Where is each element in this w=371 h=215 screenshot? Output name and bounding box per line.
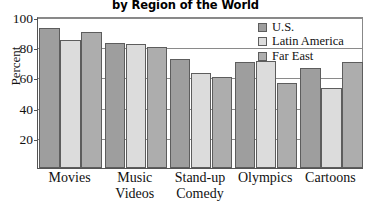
x-axis-labels: MoviesMusicVideosStand-upComedyOlympicsC… — [37, 170, 363, 215]
bar — [277, 83, 298, 168]
legend-item: U.S. — [258, 20, 362, 35]
bar — [170, 59, 191, 168]
x-axis-label-line: Olympics — [233, 170, 298, 186]
x-axis-label: Cartoons — [298, 170, 363, 186]
bar-chart: by Region of the World Percent 100806040… — [0, 0, 371, 215]
bar — [321, 88, 342, 168]
x-axis-label-line: Movies — [37, 170, 102, 186]
legend-item-label: Latin America — [272, 34, 344, 49]
legend-swatch-icon — [258, 52, 267, 61]
bar — [342, 62, 363, 168]
bar — [126, 44, 147, 168]
x-axis-label-line: Cartoons — [298, 170, 363, 186]
x-axis-line — [37, 168, 363, 169]
bar-group — [103, 18, 168, 168]
x-axis-label: Movies — [37, 170, 102, 186]
bar — [191, 73, 212, 168]
x-axis-label-line: Videos — [102, 186, 167, 202]
bar — [147, 47, 168, 168]
bar-group — [38, 18, 103, 168]
bar — [235, 62, 256, 168]
chart-title: by Region of the World — [0, 0, 371, 12]
y-tick-label-60: 60 — [20, 71, 34, 87]
legend-swatch-icon — [258, 37, 267, 46]
x-axis-label: Olympics — [233, 170, 298, 186]
x-axis-label-line: Music — [102, 170, 167, 186]
y-tick-label-40: 40 — [20, 102, 34, 118]
x-axis-label-line: Stand-up — [167, 170, 232, 186]
bar — [212, 77, 233, 168]
x-axis-label: MusicVideos — [102, 170, 167, 201]
chart-legend: U.S.Latin AmericaFar East — [258, 20, 362, 64]
y-tick-label-20: 20 — [20, 132, 34, 148]
bar — [60, 40, 81, 168]
bar — [81, 32, 102, 168]
y-tick-label-80: 80 — [20, 41, 34, 57]
x-axis-label: Stand-upComedy — [167, 170, 232, 201]
bar — [39, 28, 60, 168]
x-axis-label-line: Comedy — [167, 186, 232, 202]
y-tick-label-100: 100 — [13, 11, 33, 27]
legend-item-label: U.S. — [272, 20, 294, 35]
legend-item-label: Far East — [272, 49, 313, 64]
bar — [256, 61, 277, 168]
bar-group — [168, 18, 233, 168]
legend-swatch-icon — [258, 23, 267, 32]
bar — [105, 43, 126, 168]
bar — [300, 68, 321, 168]
legend-item: Far East — [258, 49, 362, 64]
legend-item: Latin America — [258, 35, 362, 50]
